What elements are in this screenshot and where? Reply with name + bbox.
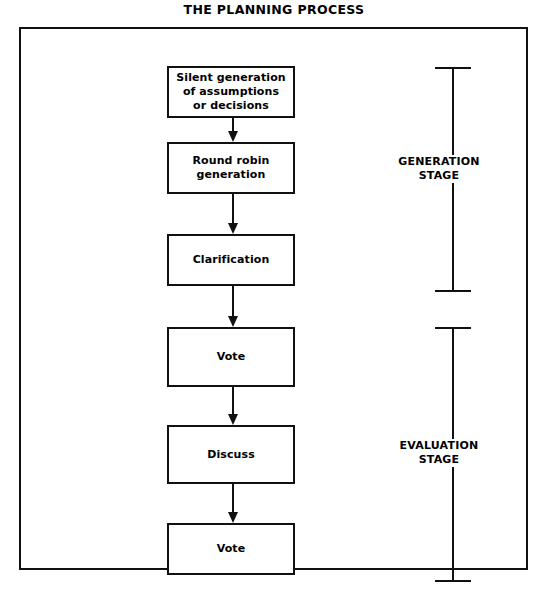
arrow-shaft [232, 194, 234, 224]
process-box-label: Silent generation of assumptions or deci… [176, 71, 285, 113]
arrow-shaft [232, 484, 234, 513]
process-box-label: Clarification [193, 253, 270, 267]
bracket-cap-bottom [435, 580, 471, 582]
process-box-discuss[interactable]: Discuss [167, 425, 295, 484]
process-box-label: Round robin generation [193, 154, 270, 182]
process-box-clarification[interactable]: Clarification [167, 234, 295, 286]
flow-arrow-3 [228, 286, 238, 327]
arrow-head-icon [228, 414, 238, 425]
arrow-head-icon [228, 316, 238, 327]
process-box-label: Discuss [207, 448, 255, 462]
process-box-vote-first[interactable]: Vote [167, 327, 295, 387]
flow-arrow-5 [228, 484, 238, 523]
arrow-head-icon [228, 512, 238, 523]
flow-arrow-2 [228, 194, 238, 234]
arrow-shaft [232, 118, 234, 132]
arrow-shaft [232, 387, 234, 415]
process-box-label: Vote [217, 542, 246, 556]
process-box-silent-generation[interactable]: Silent generation of assumptions or deci… [167, 66, 295, 118]
stage-label-generation: GENERATION STAGE [359, 155, 519, 183]
flow-arrow-4 [228, 387, 238, 425]
stage-label-evaluation: EVALUATION STAGE [359, 439, 519, 467]
arrow-shaft [232, 286, 234, 317]
arrow-head-icon [228, 131, 238, 142]
process-box-label: Vote [217, 350, 246, 364]
flow-arrow-1 [228, 118, 238, 142]
process-box-round-robin-generation[interactable]: Round robin generation [167, 142, 295, 194]
arrow-head-icon [228, 223, 238, 234]
page-title: THE PLANNING PROCESS [0, 2, 548, 17]
bracket-cap-bottom [435, 290, 471, 292]
diagram-frame: Silent generation of assumptions or deci… [19, 27, 528, 570]
process-box-vote-second[interactable]: Vote [167, 523, 295, 575]
